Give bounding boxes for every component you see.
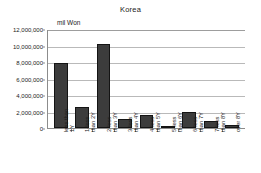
x-axis-category-label: 5-lessthan 6Y — [171, 112, 184, 132]
y-axis-tick-label: 10,000,000 — [13, 44, 43, 50]
y-axis-tick-mark — [43, 112, 45, 113]
x-label-slot: 1-lessthan 2Y — [71, 132, 93, 173]
x-axis-category-label: 1-lessthan 2Y — [84, 112, 97, 132]
x-axis-category-label: over 8Y — [235, 112, 241, 132]
y-axis-unit-label: mil Won — [57, 19, 80, 26]
x-label-slot: 2-lessthan 3Y — [92, 132, 114, 173]
x-label-slot: less than1Y — [49, 132, 71, 173]
y-axis-tick-mark — [43, 129, 45, 130]
y-axis-tick-label: 4,000,000 — [16, 93, 43, 99]
y-axis-tick-mark — [43, 46, 45, 47]
x-axis-category-label: 4-lessthan 5Y — [149, 112, 162, 132]
y-axis-tick-mark — [43, 96, 45, 97]
x-label-slot: 5-lessthan 6Y — [157, 132, 179, 173]
x-axis-category-label: 6-lessthan 7Y — [192, 112, 205, 132]
y-axis-tick-mark — [43, 63, 45, 64]
y-axis-tick-mark — [43, 79, 45, 80]
y-axis-tick-labels: 12,000,00010,000,0008,000,0006,000,0004,… — [0, 30, 45, 129]
x-label-slot: over 8Y — [222, 132, 244, 173]
y-axis-tick-label: 6,000,000 — [16, 77, 43, 83]
y-axis-tick-label: 2,000,000 — [16, 110, 43, 116]
x-axis-category-labels: less than1Y1-lessthan 2Y2-lessthan 3Y3-l… — [47, 132, 245, 173]
x-axis-category-label: 3-lessthan 4Y — [127, 112, 140, 132]
x-axis-category-label: 7-lessthan 8Y — [214, 112, 227, 132]
y-axis-tick-mark — [43, 30, 45, 31]
chart-title: Korea — [0, 5, 261, 14]
x-axis-category-label: 2-lessthan 3Y — [106, 112, 119, 132]
x-label-slot: 3-lessthan 4Y — [114, 132, 136, 173]
y-axis-tick-label: 8,000,000 — [16, 60, 43, 66]
x-label-slot: 6-lessthan 7Y — [178, 132, 200, 173]
bar-chart: Korea mil Won 12,000,00010,000,0008,000,… — [0, 0, 261, 173]
x-label-slot: 4-lessthan 5Y — [135, 132, 157, 173]
x-label-slot: 7-lessthan 8Y — [200, 132, 222, 173]
y-axis-tick-label: 12,000,000 — [13, 27, 43, 33]
x-axis-category-label: less than1Y — [63, 109, 76, 132]
